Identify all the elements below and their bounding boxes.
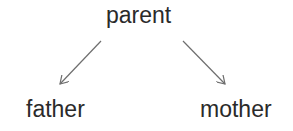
node-parent: parent — [106, 4, 171, 27]
diagram-canvas: parent father mother — [0, 0, 293, 131]
edge-parent-to-father — [60, 41, 101, 84]
node-father: father — [26, 98, 85, 121]
edge-parent-to-mother — [183, 41, 225, 84]
node-mother: mother — [200, 98, 272, 121]
